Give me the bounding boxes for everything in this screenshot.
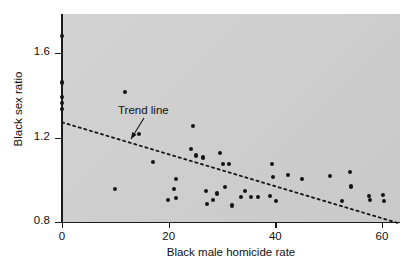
trend-line-annotation-label: Trend line	[118, 104, 169, 116]
plot-area: 0.81.21.6 0204060 Trend line	[0, 0, 416, 269]
y-axis-title: Black sex ratio	[12, 39, 24, 179]
x-axis-title: Black male homicide rate	[62, 246, 400, 258]
trend-line-overlay	[0, 0, 416, 269]
annotation-arrow-head	[131, 132, 137, 139]
trend-line	[62, 122, 398, 223]
scatter-chart-figure: 0.81.21.6 0204060 Trend line Black sex r…	[0, 0, 416, 269]
